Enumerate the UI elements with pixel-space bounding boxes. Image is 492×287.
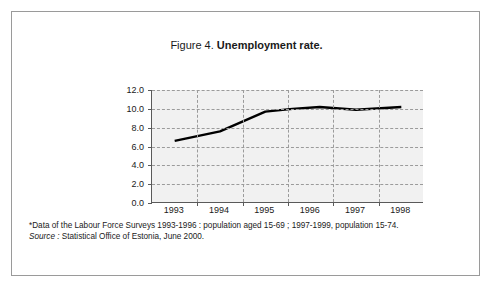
x-axis-tick-label: 1995 xyxy=(242,205,286,215)
x-axis-tick-label: 1994 xyxy=(197,205,241,215)
y-axis-tick-label: 8.0 xyxy=(111,123,144,132)
y-axis-tick-label: 10.0 xyxy=(111,104,144,113)
y-axis-tick xyxy=(148,109,152,110)
x-axis-tick-labels: 199319941995199619971998 xyxy=(151,205,423,219)
y-axis-tick-label: 2.0 xyxy=(111,180,144,189)
x-axis-tick-label: 1993 xyxy=(152,205,196,215)
x-axis-tick-label: 1997 xyxy=(333,205,377,215)
gridline-vertical xyxy=(288,90,289,202)
gridline-vertical xyxy=(379,90,380,202)
gridline-vertical xyxy=(333,90,334,202)
y-axis-tick-label: 0.0 xyxy=(111,199,144,208)
y-axis-tick xyxy=(148,128,152,129)
y-axis-tick xyxy=(148,90,152,91)
x-axis-tick-label: 1998 xyxy=(378,205,422,215)
y-axis-tick-label: 12.0 xyxy=(111,86,144,95)
y-axis-tick xyxy=(148,165,152,166)
figure-screenshot: Figure 4. Unemployment rate. 12.010.08.0… xyxy=(0,0,492,287)
gridline-vertical xyxy=(197,90,198,202)
y-axis-tick-label: 6.0 xyxy=(111,142,144,151)
y-axis-tick xyxy=(148,147,152,148)
y-axis-tick-labels: 12.010.08.06.04.02.00.0 xyxy=(111,84,144,204)
source-label: Source : xyxy=(29,232,60,241)
footnote-source: Source : Statistical Office of Estonia, … xyxy=(29,231,469,242)
page-title: Figure 4. Unemployment rate. xyxy=(12,39,481,51)
figure-frame: Figure 4. Unemployment rate. 12.010.08.0… xyxy=(11,11,480,276)
plot-area xyxy=(151,90,423,203)
y-axis-tick-label: 4.0 xyxy=(111,161,144,170)
source-text: Statistical Office of Estonia, June 2000… xyxy=(62,232,204,241)
footnote-data-note: *Data of the Labour Force Surveys 1993-1… xyxy=(29,220,469,231)
y-axis-tick xyxy=(148,184,152,185)
footnotes: *Data of the Labour Force Surveys 1993-1… xyxy=(29,220,469,242)
x-axis-tick-label: 1996 xyxy=(288,205,332,215)
gridline-vertical xyxy=(243,90,244,202)
figure-number: Figure 4. xyxy=(170,39,213,51)
figure-name: Unemployment rate. xyxy=(217,39,323,51)
y-axis-tick xyxy=(148,203,152,204)
chart-container: 12.010.08.06.04.02.00.0 1993199419951996… xyxy=(111,84,425,212)
